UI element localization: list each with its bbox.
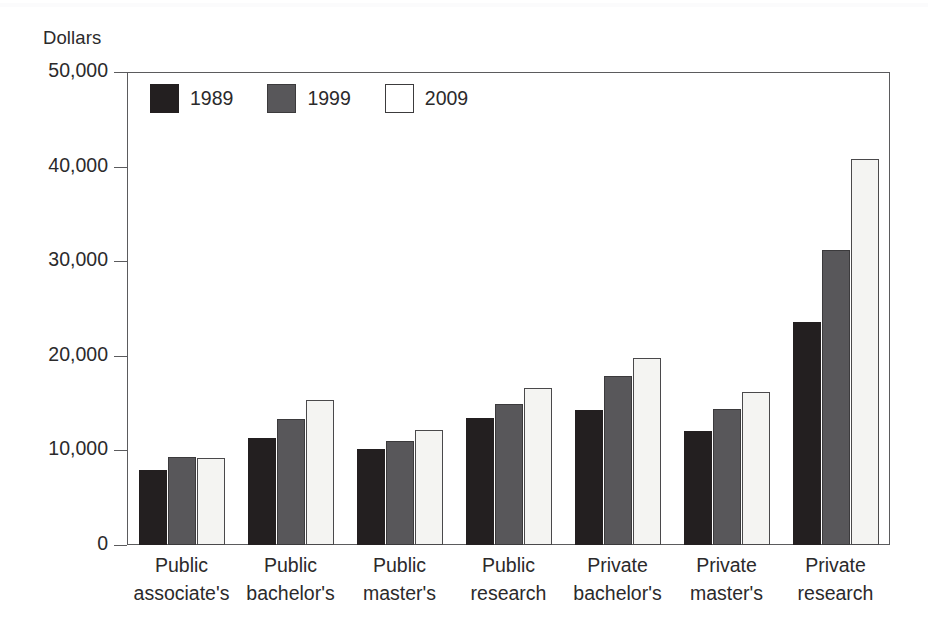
y-axis-tick-label: 10,000 [4,437,108,460]
legend-item-1989: 1989 [150,84,233,113]
x-axis-label-3: Publicmaster's [345,551,454,607]
bar-1999-7 [822,250,850,545]
bar-2009-3 [415,430,443,545]
legend-label: 1999 [307,87,350,110]
legend-label: 2009 [425,87,468,110]
y-axis-tick-label: 30,000 [4,248,108,271]
y-axis-title: Dollars [43,27,101,49]
y-axis-tick-label: 20,000 [4,343,108,366]
x-axis-labels: Publicassociate'sPublicbachelor'sPublicm… [127,551,890,621]
y-axis-tick [114,356,127,357]
y-axis-tick [114,450,127,451]
bar-1999-4 [495,404,523,545]
y-axis-tick [114,167,127,168]
bar-2009-6 [742,392,770,545]
x-axis-label-4: Publicresearch [454,551,563,607]
legend-label: 1989 [190,87,233,110]
y-axis-tick [114,72,127,73]
x-axis-label-1: Publicassociate's [127,551,236,607]
legend-item-1999: 1999 [267,84,350,113]
x-axis-label-5: Privatebachelor's [563,551,672,607]
x-axis-label-6: Privatemaster's [672,551,781,607]
bar-1989-5 [575,410,603,545]
bar-1989-1 [139,470,167,545]
scan-artifact-strip [0,3,928,7]
x-axis-label-7: Privateresearch [781,551,890,607]
y-axis-tick-label: 40,000 [4,154,108,177]
y-axis-tick-label: 50,000 [4,59,108,82]
y-axis-tick [114,261,127,262]
legend-swatch-icon [267,84,296,113]
bar-1989-7 [793,322,821,545]
bar-2009-5 [633,358,661,545]
y-axis-tick-label: 0 [4,532,108,555]
bar-chart-figure: Dollars 010,00020,00030,00040,00050,000 … [0,0,928,631]
bar-1989-3 [357,449,385,545]
bar-1989-4 [466,418,494,545]
bar-1999-1 [168,457,196,545]
bar-1999-2 [277,419,305,545]
bar-1999-5 [604,376,632,545]
bar-2009-7 [851,159,879,545]
bar-1999-6 [713,409,741,545]
bar-group [139,72,225,545]
chart-legend: 198919992009 [150,84,502,113]
bar-group [466,72,552,545]
legend-swatch-icon [385,84,414,113]
y-axis-tick [114,545,127,546]
bar-2009-1 [197,458,225,545]
legend-swatch-icon [150,84,179,113]
bar-2009-4 [524,388,552,545]
bar-1989-2 [248,438,276,545]
bar-group [684,72,770,545]
bar-group [357,72,443,545]
legend-item-2009: 2009 [385,84,468,113]
bar-1989-6 [684,431,712,545]
bar-group [575,72,661,545]
bar-group [793,72,879,545]
bar-2009-2 [306,400,334,545]
bars-layer [127,72,890,545]
x-axis-label-2: Publicbachelor's [236,551,345,607]
bar-1999-3 [386,441,414,545]
bar-group [248,72,334,545]
